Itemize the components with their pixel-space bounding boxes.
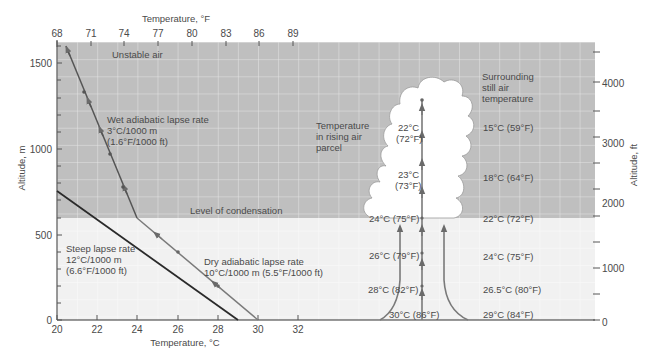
svg-text:(6.6°F/1000 ft): (6.6°F/1000 ft) [66, 265, 127, 276]
x2-tick-86: 86 [253, 28, 265, 39]
svg-text:temperature: temperature [482, 93, 533, 104]
y2-tick-2000: 2000 [602, 198, 625, 209]
parcel-temp-22: 22°C [398, 122, 419, 133]
y-tick-1000: 1000 [30, 144, 53, 155]
x2-tick-77: 77 [152, 28, 164, 39]
parcel-temp-23: 23°C [398, 169, 419, 180]
x-tick-24: 24 [131, 324, 143, 335]
y-tick-500: 500 [35, 230, 52, 241]
lapse-rate-chart: 0 500 1000 1500 Altitude, m 0 1000 2000 … [0, 0, 653, 363]
x-tick-20: 20 [51, 324, 63, 335]
parcel-temp-30: 30°C (86°F) [389, 309, 439, 320]
y-tick-1500: 1500 [30, 58, 53, 69]
svg-text:Dry adiabatic lapse rate: Dry adiabatic lapse rate [204, 256, 304, 267]
svg-text:parcel: parcel [316, 142, 342, 153]
parcel-temp-26: 26°C (79°F) [369, 250, 419, 261]
surrounding-temp-24: 24°C (75°F) [483, 251, 533, 262]
surrounding-temp-18: 18°C (64°F) [483, 172, 533, 183]
x2-tick-89: 89 [287, 28, 299, 39]
x-tick-32: 32 [292, 324, 304, 335]
unstable-air-label: Unstable air [112, 49, 163, 60]
svg-text:12°C/1000 m: 12°C/1000 m [66, 254, 122, 265]
left-axis-title: Altitude, m [16, 145, 27, 190]
surrounding-temp-29: 29°C (84°F) [483, 309, 533, 320]
top-axis-title: Temperature, °F [142, 13, 210, 24]
svg-text:3°C/1000 m: 3°C/1000 m [107, 125, 157, 136]
y2-tick-0: 0 [602, 317, 608, 328]
svg-text:Surrounding: Surrounding [482, 71, 534, 82]
surrounding-temp-15: 15°C (59°F) [483, 122, 533, 133]
parcel-temp-24: 24°C (75°F) [369, 213, 419, 224]
surrounding-temp-22: 22°C (72°F) [483, 213, 533, 224]
surrounding-temp-26-5: 26.5°C (80°F) [483, 284, 541, 295]
svg-text:Steep lapse rate: Steep lapse rate [66, 243, 135, 254]
x-tick-28: 28 [212, 324, 224, 335]
x2-tick-74: 74 [118, 28, 130, 39]
level-of-condensation-label: Level of condensation [190, 205, 282, 216]
right-axis-title: Altitude, ft [628, 144, 639, 187]
y2-tick-3000: 3000 [602, 138, 625, 149]
x2-tick-71: 71 [85, 28, 97, 39]
svg-text:(1.6°F/1000 ft): (1.6°F/1000 ft) [107, 136, 168, 147]
parcel-temp-22-f: (72°F) [396, 133, 423, 144]
x-tick-26: 26 [172, 324, 184, 335]
stable-air-region [57, 218, 595, 320]
svg-text:in rising air: in rising air [316, 131, 362, 142]
x2-tick-83: 83 [220, 28, 232, 39]
svg-text:Wet adiabatic lapse rate: Wet adiabatic lapse rate [107, 114, 209, 125]
x2-tick-68: 68 [51, 28, 63, 39]
x-tick-22: 22 [91, 324, 103, 335]
parcel-temp-28: 28°C (82°F) [368, 284, 418, 295]
y2-tick-4000: 4000 [602, 78, 625, 89]
svg-text:still air: still air [482, 82, 509, 93]
y2-tick-1000: 1000 [602, 263, 625, 274]
parcel-temp-23-f: (73°F) [395, 180, 422, 191]
bottom-axis-title: Temperature, °C [150, 337, 219, 348]
x2-tick-80: 80 [186, 28, 198, 39]
x-tick-30: 30 [252, 324, 264, 335]
svg-text:10°C/1000 m (5.5°F/1000 ft): 10°C/1000 m (5.5°F/1000 ft) [204, 267, 323, 278]
svg-text:Temperature: Temperature [316, 120, 369, 131]
